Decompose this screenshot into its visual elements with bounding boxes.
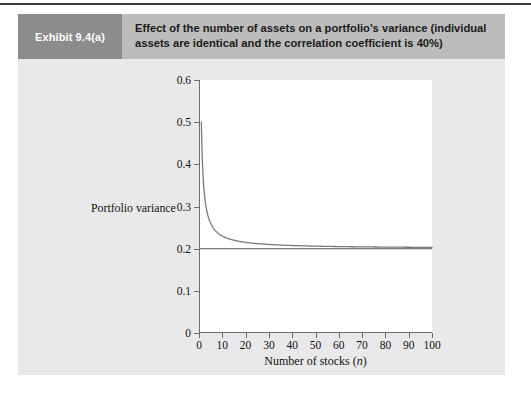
x-axis-title: Number of stocks (n): [199, 354, 432, 369]
y-tick-label: 0.6: [177, 74, 191, 86]
y-tick-label: 0.3: [177, 201, 191, 213]
x-tick: [339, 333, 340, 338]
y-axis-title: Portfolio variance: [91, 201, 176, 216]
x-tick: [246, 333, 247, 338]
x-tick: [362, 333, 363, 338]
x-tick-label: 0: [196, 339, 202, 351]
y-tick-label: 0: [185, 327, 191, 339]
plot-box: 00.10.20.30.40.50.6 01020304050607080901…: [199, 80, 432, 333]
y-tick-label: 0.2: [177, 243, 191, 255]
exhibit-header: Exhibit 9.4(a) Effect of the number of a…: [18, 14, 505, 59]
x-tick-label: 80: [380, 339, 392, 351]
x-tick-label: 20: [240, 339, 252, 351]
x-tick-label: 60: [333, 339, 345, 351]
chart-area: Portfolio variance Number of stocks (n) …: [18, 59, 505, 375]
portfolio-variance-curve: [201, 122, 432, 247]
x-tick: [432, 333, 433, 338]
exhibit-caption: Effect of the number of assets on a port…: [122, 14, 505, 59]
y-tick-label: 0.5: [177, 116, 191, 128]
x-tick: [385, 333, 386, 338]
x-tick-label: 40: [286, 339, 298, 351]
exhibit-panel: Exhibit 9.4(a) Effect of the number of a…: [18, 14, 505, 375]
x-tick-label: 70: [356, 339, 368, 351]
x-tick-label: 50: [310, 339, 322, 351]
x-tick-label: 30: [263, 339, 275, 351]
x-tick: [292, 333, 293, 338]
x-tick: [269, 333, 270, 338]
y-tick-label: 0.4: [177, 158, 191, 170]
x-axis-title-text: Number of stocks (n): [264, 354, 366, 368]
x-tick-label: 90: [403, 339, 415, 351]
x-tick: [199, 333, 200, 338]
x-tick: [222, 333, 223, 338]
y-tick-label: 0.1: [177, 285, 191, 297]
page-top-rule: [0, 3, 531, 5]
x-tick-label: 10: [217, 339, 229, 351]
x-tick: [316, 333, 317, 338]
x-tick: [409, 333, 410, 338]
exhibit-number-tag: Exhibit 9.4(a): [18, 14, 122, 59]
curve-svg: [199, 80, 432, 333]
x-tick-label: 100: [423, 339, 440, 351]
